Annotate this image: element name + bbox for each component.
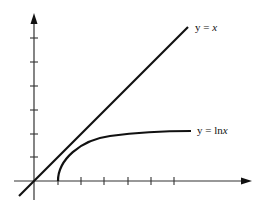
curve-y-equals-x	[19, 27, 188, 196]
label-y-equals-x: y = x	[195, 21, 217, 33]
x-axis-arrow-icon	[241, 178, 252, 185]
graph-canvas	[0, 0, 262, 209]
y-axis-arrow-icon	[31, 13, 38, 24]
label-y-equals-ln-x: y = lnx	[197, 124, 228, 136]
